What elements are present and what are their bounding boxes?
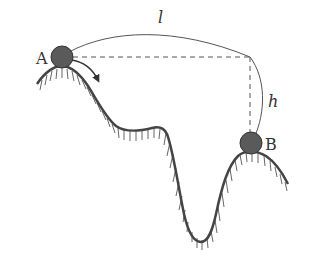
label-h: h: [268, 92, 278, 111]
ball-b: [240, 132, 262, 154]
arc-h: [250, 57, 263, 138]
arc-l: [69, 35, 250, 57]
label-b: B: [265, 135, 277, 154]
motion-arrow-icon: [72, 60, 98, 80]
label-l: l: [158, 8, 163, 27]
ball-a: [51, 46, 73, 68]
label-a: A: [35, 49, 48, 68]
diagram-canvas: A B l h: [0, 0, 313, 279]
